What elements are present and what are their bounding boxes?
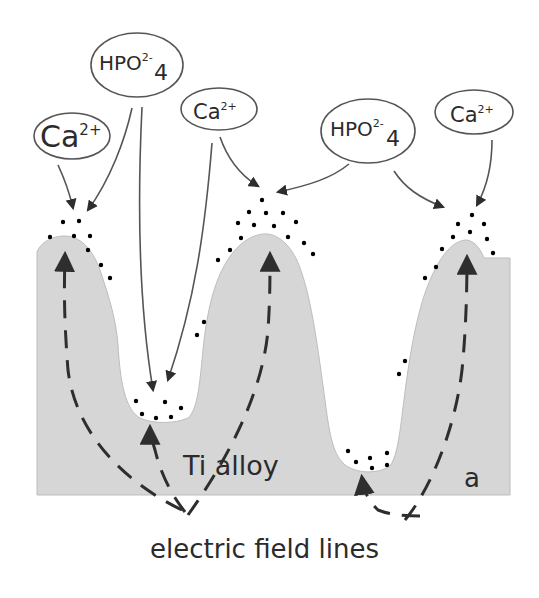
panel-label: a [464,463,480,493]
ion-ca-right: Ca2+ [435,90,513,134]
ion-ca-left: Ca2+ [34,113,110,159]
field-lines-caption: electric field lines [150,534,379,564]
electrodeposition-diagram: Ca2+ HPO2-4 Ca2+ HPO2-4 Ca2+ Ti alloy a … [0,0,539,598]
arrow-hpo4-right-to-peak2 [278,164,349,192]
substrate-label: Ti alloy [182,450,279,481]
arrow-hpo4-right-to-peak3 [394,171,443,207]
arrow-ca-right-to-peak3 [477,140,492,205]
arrow-hpo4-to-valley1 [140,107,153,390]
arrow-ca-mid-to-peak2 [220,137,258,186]
ion-hpo4-left: HPO2-4 [91,33,183,97]
ion-ca-middle: Ca2+ [181,88,257,130]
ion-hpo4-right: HPO2-4 [321,99,415,163]
arrow-ca-left-to-peak1 [58,165,73,208]
